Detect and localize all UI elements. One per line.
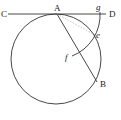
label-A: A [54,4,61,13]
label-D: D [109,10,116,19]
label-g: g [96,3,101,12]
label-C: C [1,10,7,19]
chord-AB [57,14,97,82]
label-f: f [65,53,68,62]
circle [11,14,101,104]
label-e: e [96,31,100,40]
label-B: B [100,80,106,89]
geometry-diagram [0,0,121,120]
